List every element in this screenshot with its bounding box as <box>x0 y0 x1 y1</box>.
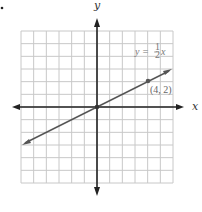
x-axis-right-arrow-icon <box>176 104 184 110</box>
y-axis-up-arrow-icon <box>94 18 100 27</box>
origin-point <box>95 105 100 110</box>
x-axis-label: x <box>192 100 199 113</box>
point-label: (4, 2) <box>150 84 172 96</box>
svg-text:x: x <box>160 46 166 57</box>
bullet-mark <box>1 7 4 10</box>
y-axis-down-arrow-icon <box>94 187 100 196</box>
svg-text:y =: y = <box>134 46 149 57</box>
coordinate-plane: x y y = 1 2 x (4, 2) <box>0 0 202 212</box>
x-axis-left-arrow-icon <box>12 104 20 110</box>
svg-text:2: 2 <box>155 49 160 60</box>
point-4-2 <box>146 79 151 84</box>
y-axis-label: y <box>93 0 101 12</box>
